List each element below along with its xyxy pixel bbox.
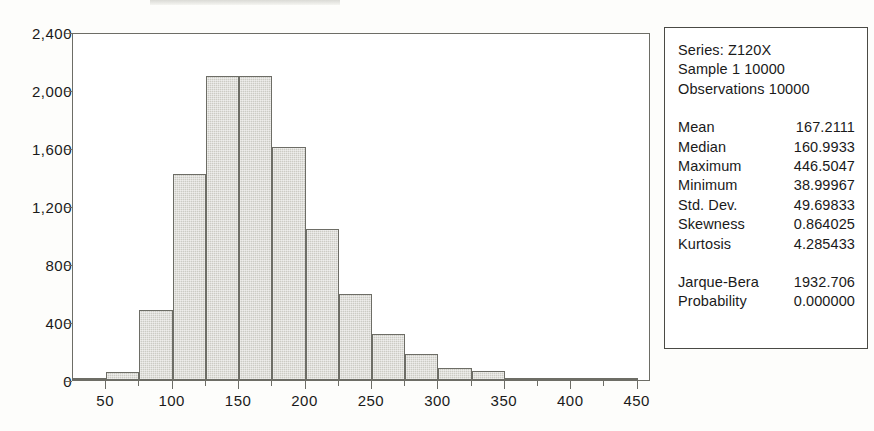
x-axis-tick-mark [637,381,638,389]
histogram-bar [173,174,206,380]
statistic-value: 49.69833 [794,196,855,215]
statistics-panel: Series: Z120XSample 1 10000Observations … [664,27,868,349]
y-axis-tick-label: 400 [0,315,72,332]
statistic-row: Kurtosis4.285433 [678,235,855,254]
statistic-value: 160.9933 [794,138,855,157]
x-axis-minor-tick-mark [138,381,139,386]
histogram-bar [438,368,471,380]
statistic-row: Maximum446.5047 [678,157,855,176]
x-axis-minor-tick-mark [404,381,405,386]
x-axis-tick-label: 200 [275,392,335,409]
x-axis-minor-tick-mark [471,381,472,386]
statistic-label: Jarque-Bera [678,273,759,292]
x-axis-tick-label: 300 [407,392,467,409]
normality-test-row: Probability0.000000 [678,292,855,311]
statistic-label: Mean [678,118,715,137]
x-axis-tick-label: 450 [607,392,667,409]
statistic-value: 0.864025 [794,215,855,234]
histogram-bar [73,378,106,380]
statistic-label: Kurtosis [678,235,731,254]
statistics-rows: Mean167.2111Median160.9933Maximum446.504… [678,118,855,254]
y-axis-tick-label: 2,400 [0,25,72,42]
histogram-bar [538,378,571,380]
histogram-bar [239,76,272,380]
x-axis-tick-label: 50 [75,392,135,409]
statistic-value: 4.285433 [794,235,855,254]
statistic-value: 1932.706 [794,273,855,292]
y-axis-tick-mark [65,91,72,92]
statistic-value: 0.000000 [794,292,855,311]
y-axis-tick-label: 2,000 [0,83,72,100]
spacer [678,254,855,273]
histogram-bar [472,371,505,380]
x-axis-tick-mark [238,381,239,389]
y-axis-tick-mark [65,149,72,150]
histogram-bar [306,229,339,380]
x-axis-tick-mark [504,381,505,389]
statistic-value: 38.99967 [794,176,855,195]
x-axis-minor-tick-mark [271,381,272,386]
x-axis-tick-mark [371,381,372,389]
statistic-label: Probability [678,292,747,311]
x-axis-tick-mark [305,381,306,389]
statistics-header-line: Series: Z120X [678,41,855,60]
histogram-bar [604,378,637,380]
x-axis-tick-mark [172,381,173,389]
histogram-bar [339,294,372,380]
x-axis-minor-tick-mark [603,381,604,386]
statistic-row: Median160.9933 [678,138,855,157]
y-axis-tick-mark [65,323,72,324]
x-axis-tick-mark [437,381,438,389]
y-axis-tick-mark [65,265,72,266]
x-axis-minor-tick-mark [338,381,339,386]
y-axis-tick-label: 800 [0,257,72,274]
statistic-label: Skewness [678,215,745,234]
histogram-bar [571,378,604,380]
histogram-bar [372,334,405,380]
histogram-bars [73,34,649,380]
statistic-row: Minimum38.99967 [678,176,855,195]
spacer [678,99,855,118]
statistic-row: Skewness0.864025 [678,215,855,234]
statistics-header: Series: Z120XSample 1 10000Observations … [678,41,855,99]
statistic-label: Maximum [678,157,742,176]
histogram-bar [106,372,139,380]
y-axis-tick-label: 1,200 [0,199,72,216]
statistic-label: Median [678,138,726,157]
statistic-row: Mean167.2111 [678,118,855,137]
histogram-bar [405,354,438,380]
y-axis-tick-mark [65,207,72,208]
x-axis-tick-mark [105,381,106,389]
statistic-row: Std. Dev.49.69833 [678,196,855,215]
statistic-value: 167.2111 [796,118,855,137]
x-axis-minor-tick-mark [205,381,206,386]
plot-frame [72,33,650,381]
y-axis-tick-mark [65,33,72,34]
histogram-bar [272,147,305,380]
histogram-bar [206,76,239,381]
statistics-header-line: Sample 1 10000 [678,60,855,79]
histogram-bar [139,310,172,380]
x-axis-tick-label: 100 [142,392,202,409]
y-axis-tick-mark [65,381,72,382]
histogram-bar [505,378,538,380]
x-axis-tick-label: 400 [540,392,600,409]
y-axis-tick-label: 0 [0,373,72,390]
normality-test-row: Jarque-Bera1932.706 [678,273,855,292]
statistic-value: 446.5047 [794,157,855,176]
normality-test-rows: Jarque-Bera1932.706Probability0.000000 [678,273,855,312]
x-axis-tick-mark [570,381,571,389]
histogram-chart: 04008001,2001,6002,0002,400 501001502002… [0,0,660,431]
statistic-label: Std. Dev. [678,196,737,215]
x-axis-tick-label: 150 [208,392,268,409]
x-axis-tick-label: 250 [341,392,401,409]
x-axis-tick-label: 350 [474,392,534,409]
statistics-header-line: Observations 10000 [678,80,855,99]
statistic-label: Minimum [678,176,738,195]
x-axis-minor-tick-mark [537,381,538,386]
y-axis-tick-label: 1,600 [0,141,72,158]
